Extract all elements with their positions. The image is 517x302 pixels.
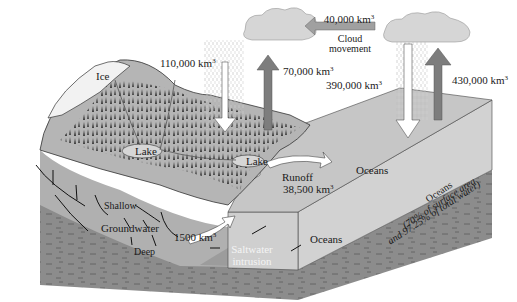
label-groundwater: Groundwater xyxy=(101,223,159,234)
label-lake-2: Lake xyxy=(246,156,268,167)
label-runoff-value: 38,500 km3 xyxy=(283,184,334,195)
label-precip-ocean: 390,000 km3 xyxy=(326,80,382,91)
label-groundwater-flow: 1500 km3 xyxy=(174,232,216,243)
label-ice: Ice xyxy=(96,71,109,82)
label-oceans-surface: Oceans xyxy=(356,165,388,176)
label-lake-1: Lake xyxy=(135,146,157,157)
label-movement: movement xyxy=(320,44,380,54)
label-deep: Deep xyxy=(134,247,155,257)
water-cycle-diagram: Ice Lake Lake 110,000 km3 70,000 km3 40,… xyxy=(0,0,517,302)
label-evap-ocean: 430,000 km3 xyxy=(452,75,508,86)
label-shallow: Shallow xyxy=(104,201,137,211)
label-intrusion: intrusion xyxy=(222,256,282,267)
label-cloud-movement-value: 40,000 km3 xyxy=(318,14,380,25)
label-runoff: Runoff xyxy=(282,172,313,183)
label-precip-land: 110,000 km3 xyxy=(160,58,216,69)
label-saltwater: Saltwater xyxy=(222,244,282,255)
label-evap-land: 70,000 km3 xyxy=(283,66,334,77)
label-oceans-subsurface: Oceans xyxy=(310,234,342,245)
